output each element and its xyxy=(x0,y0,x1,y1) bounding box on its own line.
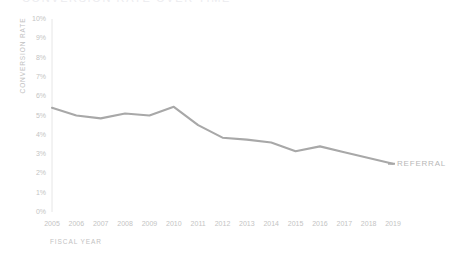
series-line-referral xyxy=(52,107,393,164)
plot-area xyxy=(0,0,465,260)
conversion-rate-line-chart: CONVERSION RATE OVER TIME CONVERSION RAT… xyxy=(0,0,465,260)
series-label-referral: REFERRAL xyxy=(397,159,446,168)
